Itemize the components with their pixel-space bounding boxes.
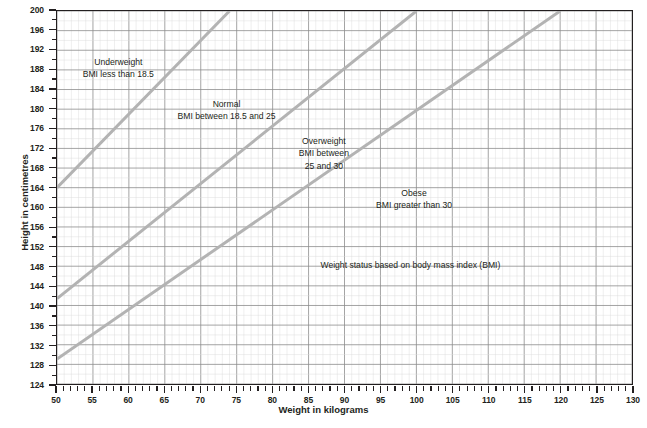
- x-tick-mark: [394, 386, 395, 391]
- y-tick-label: 128: [0, 360, 44, 370]
- x-tick-label: 90: [340, 395, 349, 405]
- x-tick-label: 130: [626, 395, 640, 405]
- y-tick-label: 152: [0, 242, 44, 252]
- x-tick-mark: [322, 386, 323, 391]
- x-tick-mark: [611, 386, 612, 391]
- x-tick-mark: [214, 386, 215, 391]
- x-tick-mark: [452, 386, 453, 393]
- x-tick-mark: [200, 386, 201, 393]
- x-tick-mark: [467, 386, 468, 391]
- y-tick-label: 184: [0, 84, 44, 94]
- x-tick-mark: [149, 386, 150, 391]
- x-tick-mark: [178, 386, 179, 391]
- x-tick-mark: [524, 386, 525, 393]
- x-tick-mark: [106, 386, 107, 391]
- x-tick-mark: [582, 386, 583, 391]
- x-tick-mark: [539, 386, 540, 391]
- x-axis-title: Weight in kilograms: [0, 404, 647, 415]
- y-tick-mark: [49, 49, 56, 50]
- x-tick-mark: [495, 386, 496, 391]
- x-tick-label: 100: [410, 395, 424, 405]
- x-tick-label: 50: [51, 395, 60, 405]
- x-tick-mark: [510, 386, 511, 391]
- x-tick-label: 120: [554, 395, 568, 405]
- y-tick-mark: [49, 286, 56, 287]
- x-tick-label: 105: [446, 395, 460, 405]
- x-tick-mark: [366, 386, 367, 391]
- x-tick-mark: [192, 386, 193, 391]
- y-tick-label: 156: [0, 222, 44, 232]
- x-tick-mark: [329, 386, 330, 391]
- y-tick-mark: [49, 88, 56, 89]
- x-tick-mark: [416, 386, 417, 393]
- y-tick-label: 188: [0, 64, 44, 74]
- x-tick-mark: [293, 386, 294, 391]
- x-tick-mark: [632, 386, 633, 393]
- x-tick-mark: [358, 386, 359, 391]
- x-tick-mark: [430, 386, 431, 391]
- x-tick-mark: [315, 386, 316, 391]
- x-tick-label: 70: [196, 395, 205, 405]
- x-tick-mark: [272, 386, 273, 393]
- x-tick-mark: [438, 386, 439, 391]
- x-tick-mark: [351, 386, 352, 391]
- x-tick-mark: [604, 386, 605, 391]
- x-tick-mark: [373, 386, 374, 391]
- x-tick-label: 55: [87, 395, 96, 405]
- y-tick-label: 172: [0, 143, 44, 153]
- x-tick-mark: [120, 386, 121, 391]
- y-tick-label: 148: [0, 262, 44, 272]
- x-tick-mark: [589, 386, 590, 391]
- x-tick-label: 85: [304, 395, 313, 405]
- x-tick-label: 60: [123, 395, 132, 405]
- x-tick-mark: [185, 386, 186, 391]
- y-tick-mark: [49, 365, 56, 366]
- y-tick-mark: [49, 187, 56, 188]
- x-tick-mark: [546, 386, 547, 391]
- x-tick-mark: [63, 386, 64, 391]
- x-tick-mark: [84, 386, 85, 391]
- x-tick-mark: [164, 386, 165, 393]
- y-tick-mark: [49, 266, 56, 267]
- x-tick-mark: [70, 386, 71, 391]
- x-tick-mark: [575, 386, 576, 391]
- x-tick-mark: [243, 386, 244, 391]
- bmi-boundary-lines: [57, 11, 632, 384]
- x-tick-mark: [567, 386, 568, 391]
- x-tick-mark: [553, 386, 554, 391]
- x-tick-mark: [113, 386, 114, 391]
- y-tick-mark: [49, 305, 56, 306]
- x-tick-mark: [474, 386, 475, 391]
- bmi-chart: Height in centimetres Weight in kilogram…: [0, 0, 647, 428]
- x-tick-mark: [301, 386, 302, 391]
- y-tick-mark: [49, 167, 56, 168]
- y-tick-mark: [49, 9, 56, 10]
- x-tick-mark: [128, 386, 129, 393]
- x-tick-mark: [445, 386, 446, 391]
- y-tick-label: 132: [0, 341, 44, 351]
- x-tick-mark: [279, 386, 280, 391]
- y-tick-mark: [49, 29, 56, 30]
- x-tick-mark: [236, 386, 237, 393]
- y-tick-mark: [49, 148, 56, 149]
- y-tick-mark: [49, 207, 56, 208]
- x-tick-label: 80: [268, 395, 277, 405]
- x-tick-mark: [423, 386, 424, 391]
- y-tick-label: 124: [0, 380, 44, 390]
- y-tick-label: 160: [0, 202, 44, 212]
- x-tick-mark: [380, 386, 381, 393]
- x-tick-mark: [229, 386, 230, 391]
- y-tick-mark: [49, 108, 56, 109]
- x-tick-mark: [221, 386, 222, 391]
- y-tick-label: 180: [0, 104, 44, 114]
- y-tick-mark: [49, 325, 56, 326]
- y-tick-mark: [49, 69, 56, 70]
- x-tick-mark: [142, 386, 143, 391]
- y-tick-label: 176: [0, 123, 44, 133]
- x-tick-label: 65: [160, 395, 169, 405]
- x-tick-mark: [625, 386, 626, 391]
- y-tick-label: 168: [0, 163, 44, 173]
- x-tick-mark: [459, 386, 460, 391]
- y-tick-label: 164: [0, 183, 44, 193]
- x-tick-mark: [308, 386, 309, 393]
